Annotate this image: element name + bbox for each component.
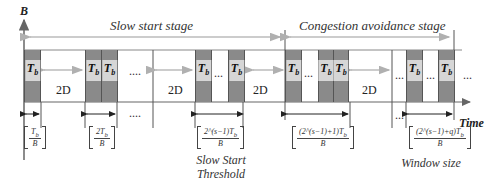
gap-label: 2D bbox=[56, 83, 71, 98]
packet-block: Tb bbox=[85, 50, 102, 102]
packet-block: Tb bbox=[406, 50, 423, 102]
packet-block: Tb bbox=[318, 50, 334, 102]
gap-label: 2D bbox=[362, 83, 377, 98]
packet-block: Tb bbox=[24, 50, 41, 102]
fraction-3: 2^(s−1)TbB bbox=[197, 126, 244, 149]
slow-start-stage-label: Slow start stage bbox=[110, 18, 193, 34]
ellipsis: ... bbox=[395, 68, 404, 83]
congestion-avoidance-stage-label: Congestion avoidance stage bbox=[299, 18, 446, 34]
fraction-5: (2^(s−1)+q)TbB bbox=[409, 126, 471, 149]
fraction-2: 2TbB bbox=[89, 126, 115, 149]
packet-block: Tb bbox=[101, 50, 118, 102]
ellipsis: ... bbox=[426, 68, 435, 83]
ellipsis: .... bbox=[129, 64, 141, 79]
ellipsis: ... bbox=[395, 108, 404, 123]
gap-label: 2D bbox=[253, 83, 268, 98]
packet-block: Tb bbox=[195, 50, 212, 102]
ellipsis: ... bbox=[463, 68, 472, 83]
packet-block: Tb bbox=[333, 50, 349, 102]
packet-block: Tb bbox=[285, 50, 302, 102]
gap-label: 2D bbox=[168, 83, 183, 98]
slow-start-threshold-caption: Slow Start Threshold bbox=[196, 153, 246, 181]
ellipsis: ... bbox=[304, 66, 313, 81]
ellipsis: ... bbox=[214, 66, 223, 81]
packet-block: Tb bbox=[438, 50, 455, 102]
fraction-4: (2^(s−1)+1)TbB bbox=[292, 126, 354, 149]
fraction-1: TbB bbox=[24, 126, 46, 149]
packet-block: Tb bbox=[228, 50, 245, 102]
window-size-caption: Window size bbox=[398, 156, 464, 170]
ellipsis: .... bbox=[129, 106, 141, 121]
y-axis-label: B bbox=[20, 4, 28, 19]
